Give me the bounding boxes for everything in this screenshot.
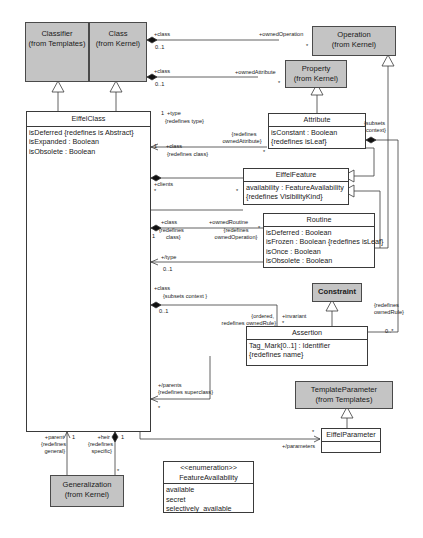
- role-label: +/parents: [158, 382, 181, 389]
- attribute: Tag_Mark[0..1] : Identifier: [249, 341, 365, 351]
- multiplicity-label: *: [236, 188, 238, 195]
- constraint-label: context}: [366, 127, 386, 134]
- role-label: +ownedRoutine: [209, 219, 248, 226]
- class-package: (from Kernel): [314, 40, 394, 50]
- enum-literal: secret: [166, 495, 251, 505]
- multiplicity-label: 1: [154, 143, 157, 150]
- role-label: +clients: [154, 181, 173, 188]
- class-name: Constraint: [313, 284, 361, 299]
- enum-stereotype: <<enumeration>>: [165, 463, 252, 473]
- role-label: +class: [161, 219, 177, 226]
- constraint-label: general}: [30, 448, 65, 455]
- multiplicity-label: *: [258, 225, 260, 232]
- class-package: (from Templates): [27, 39, 87, 49]
- multiplicity-label: *: [282, 320, 284, 327]
- constraint-label: {redefines: [374, 302, 399, 309]
- class-name: Class: [91, 29, 145, 39]
- attribute: isObsolete : Boolean: [266, 256, 372, 266]
- uml-class-diagram: Classifier(from Templates) Class(from Ke…: [0, 0, 423, 538]
- constraint-label: ownedOperation}: [209, 234, 263, 241]
- constraint-class-box[interactable]: Constraint: [312, 283, 362, 302]
- class-class-box[interactable]: Class(from Kernel): [89, 22, 147, 82]
- multiplicity-label: *: [154, 188, 156, 195]
- class-name: Property: [287, 64, 345, 74]
- templateparameter-class-box[interactable]: TemplateParameter(from Templates): [295, 381, 393, 409]
- class-name: Generalization: [52, 480, 122, 490]
- constraint-label: {redefines: [30, 441, 66, 448]
- constraint-label: ownedRule}: [374, 309, 404, 316]
- class-attributes: isDeferred : Boolean isFrozen : Boolean …: [264, 226, 374, 267]
- constraint-label: redefines ownedRule}: [208, 320, 276, 327]
- classifier-class-box[interactable]: Classifier(from Templates): [25, 22, 89, 82]
- role-label: +type: [167, 110, 181, 117]
- constraint-label: {redefines: [216, 227, 256, 234]
- constraint-label: {redefines type}: [165, 118, 204, 125]
- constraint-label: specific}: [78, 448, 112, 455]
- class-package: (from Kernel): [52, 490, 122, 500]
- multiplicity-label: 1: [152, 233, 155, 240]
- property-class-box[interactable]: Property(from Kernel): [285, 60, 347, 88]
- role-label: +class: [154, 31, 170, 38]
- role-label: +/type: [161, 254, 176, 261]
- enum-literal: available: [166, 485, 251, 495]
- class-name: EiffelParameter: [322, 429, 380, 441]
- eiffelclass-class-box[interactable]: EiffelClass isDeferred {redefines is Abs…: [26, 111, 151, 432]
- attribute: isExpanded : Boolean: [29, 137, 148, 147]
- role-label: +class: [166, 143, 182, 150]
- multiplicity-label: *: [312, 429, 314, 436]
- multiplicity-label: 0..1: [155, 81, 164, 88]
- attribute: {redefines name}: [249, 350, 365, 360]
- enum-literals: available secret selectively_available: [164, 483, 253, 515]
- class-name: FeatureAvailability: [165, 473, 252, 483]
- class-name: TemplateParameter: [297, 385, 391, 395]
- class-name: Assertion: [247, 327, 367, 339]
- class-attributes: isConstant : Boolean {redefines isLeaf}: [269, 126, 365, 148]
- attribute: isOnce : Boolean: [266, 247, 372, 257]
- eiffelfeature-class-box[interactable]: EiffelFeature availability : FeatureAvai…: [243, 168, 349, 205]
- routine-class-box[interactable]: Routine isDeferred : Boolean isFrozen : …: [263, 213, 375, 268]
- role-label: +ownedOperation: [259, 31, 303, 38]
- operation-class-box[interactable]: Operation(from Kernel): [312, 26, 396, 56]
- constraint-label: {subsets context }: [163, 293, 207, 300]
- role-label: +parent: [30, 434, 64, 441]
- role-label: +class: [154, 68, 170, 75]
- attribute: isDeferred {redefines is Abstract}: [29, 128, 148, 138]
- multiplicity-label: *: [278, 80, 280, 87]
- role-label: +heir: [80, 434, 110, 441]
- constraint-label: {redefines class}: [167, 151, 208, 158]
- class-name: EiffelClass: [27, 112, 150, 126]
- role-label: +ownedAttribute: [235, 69, 276, 76]
- constraint-label: {ordered,: [208, 313, 274, 320]
- multiplicity-label: 1: [161, 110, 164, 117]
- enum-literal: selectively_available: [166, 504, 251, 514]
- constraint-label: {redefines superclass}: [158, 389, 213, 396]
- featureavailability-enum-box[interactable]: <<enumeration>> FeatureAvailability avai…: [163, 461, 254, 513]
- class-package: (from Kernel): [91, 39, 145, 49]
- multiplicity-label: *: [158, 405, 160, 412]
- multiplicity-label: *: [306, 43, 308, 50]
- assertion-class-box[interactable]: Assertion Tag_Mark[0..1] : Identifier {r…: [246, 326, 368, 366]
- constraint-label: ownedAttribute}: [214, 138, 270, 145]
- attribute: isObsolete : Boolean: [29, 147, 148, 157]
- class-attributes: [322, 441, 380, 452]
- class-attributes: availability : FeatureAvailability {rede…: [244, 181, 348, 203]
- class-name: EiffelFeature: [244, 169, 348, 181]
- attribute: isConstant : Boolean: [271, 128, 363, 138]
- multiplicity-label: 0..1: [155, 44, 164, 51]
- attribute: {redefines VisibilityKind}: [246, 192, 346, 202]
- multiplicity-label: 1: [72, 434, 75, 441]
- multiplicity-label: 0..*: [385, 328, 393, 335]
- class-attributes: Tag_Mark[0..1] : Identifier {redefines n…: [247, 339, 367, 361]
- eiffelparameter-class-box[interactable]: EiffelParameter: [321, 428, 381, 453]
- attribute-class-box[interactable]: Attribute isConstant : Boolean {redefine…: [268, 113, 366, 149]
- attribute: isFrozen : Boolean {redefines isLeaf}: [266, 237, 372, 247]
- attribute: {redefines isLeaf}: [271, 137, 363, 147]
- multiplicity-label: 0..1: [163, 266, 172, 273]
- generalization-class-box[interactable]: Generalization(from Kernel): [50, 475, 124, 507]
- constraint-label: class}: [166, 234, 181, 241]
- class-package: (from Templates): [297, 395, 391, 405]
- role-label: +invariant: [282, 313, 306, 320]
- attribute: isDeferred : Boolean: [266, 228, 372, 238]
- constraint-label: {subsets: [364, 120, 385, 127]
- class-attributes: isDeferred {redefines is Abstract} isExp…: [27, 126, 150, 158]
